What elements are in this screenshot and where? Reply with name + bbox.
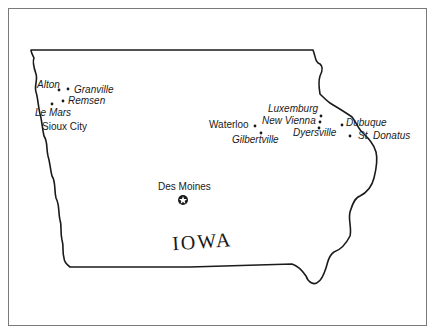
town-dot-alton — [58, 89, 61, 92]
town-label-granville: Granville — [74, 84, 114, 95]
town-label-dubuque: Dubuque — [346, 117, 387, 128]
town-label-remsen: Remsen — [68, 95, 106, 106]
town-dot-waterloo — [254, 125, 257, 128]
town-dot-dubuque — [341, 124, 344, 127]
town-label-le-mars: Le Mars — [35, 107, 71, 118]
town-label-dyersville: Dyersville — [293, 127, 337, 138]
state-name-label: IOWA — [171, 228, 233, 254]
town-dot-le-mars — [51, 103, 54, 106]
town-dot-granville — [67, 88, 70, 91]
town-dot-st-donatus — [349, 135, 352, 138]
town-label-sioux-city: Sioux City — [42, 121, 87, 132]
town-label-st-donatus: St. Donatus — [358, 130, 410, 141]
town-label-alton: Alton — [36, 79, 60, 90]
town-label-waterloo: Waterloo — [209, 119, 249, 130]
town-dot-new-vienna — [319, 121, 322, 124]
town-dot-remsen — [62, 100, 65, 103]
iowa-map: Alton Granville Remsen Le Mars Sioux Cit… — [0, 0, 436, 335]
town-label-luxemburg: Luxemburg — [268, 103, 318, 114]
capital-label-des-moines: Des Moines — [158, 181, 211, 192]
town-label-gilbertville: Gilbertville — [232, 134, 279, 145]
star-in-circle-icon — [178, 195, 188, 205]
town-dot-luxemburg — [320, 115, 323, 118]
town-label-new-vienna: New Vienna — [262, 115, 316, 126]
